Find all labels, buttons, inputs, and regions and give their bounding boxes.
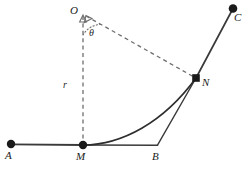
diagram-canvas — [0, 0, 249, 175]
point-label-o: O — [70, 5, 78, 16]
point-marker-n — [192, 74, 200, 82]
geometry-figure: A M B N C O r θ — [0, 0, 249, 175]
segment-am — [11, 144, 83, 145]
point-label-c: C — [234, 12, 241, 23]
point-marker-m — [79, 141, 87, 149]
radius-line-ON — [86, 16, 194, 77]
segment-nc — [196, 9, 233, 79]
point-label-a: A — [5, 150, 12, 161]
segment-bn — [158, 78, 197, 145]
radius-label-r: r — [63, 80, 67, 90]
point-marker-a — [7, 140, 15, 148]
curve-mn — [83, 78, 196, 145]
point-label-m: M — [76, 151, 85, 162]
arrowhead-on-icon — [84, 16, 92, 23]
point-label-n: N — [202, 77, 209, 88]
angle-label-theta: θ — [89, 28, 94, 38]
point-label-b: B — [152, 151, 159, 162]
